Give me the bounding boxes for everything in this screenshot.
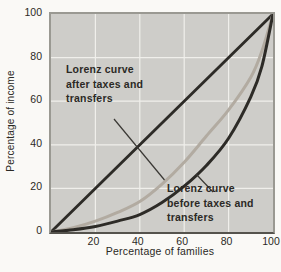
- x-axis-title: Percentage of families: [49, 245, 271, 257]
- y-axis-title: Percentage of income: [5, 54, 19, 188]
- y-tick-label: 40: [0, 137, 42, 150]
- annotation-before-line-3: transfers: [167, 210, 254, 225]
- annotation-after-line-2: after taxes and: [66, 77, 143, 92]
- y-tick-label: 0: [0, 224, 42, 237]
- annotation-before-taxes: Lorenz curve before taxes and transfers: [167, 181, 254, 225]
- annotation-after-line-1: Lorenz curve: [66, 62, 143, 77]
- y-tick-label: 60: [0, 93, 42, 106]
- lorenz-curve-figure: Percentage of income 100806040200 204060…: [0, 0, 281, 272]
- annotation-after-taxes: Lorenz curve after taxes and transfers: [66, 62, 143, 106]
- y-tick-label: 20: [0, 180, 42, 193]
- annotation-before-line-1: Lorenz curve: [167, 181, 254, 196]
- y-tick-label: 80: [0, 50, 42, 63]
- y-tick-label: 100: [0, 6, 42, 19]
- annotation-before-line-2: before taxes and: [167, 196, 254, 211]
- annotation-after-line-3: transfers: [66, 91, 143, 106]
